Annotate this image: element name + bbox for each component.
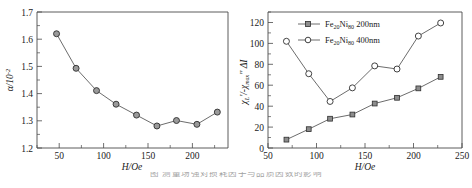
svg-text:α/10-2: α/10-2 xyxy=(4,68,15,91)
data-point xyxy=(349,85,355,91)
data-point xyxy=(394,66,400,72)
right-x-tick-marks xyxy=(268,143,462,148)
left-axes-frame xyxy=(37,12,228,148)
figure-caption-strip: 图 测量场强对损耗因子与品质因数的影响 xyxy=(0,172,472,188)
right-y-tick-labels: 120 100 80 60 40 20 0 xyxy=(250,18,265,154)
data-point xyxy=(154,123,160,129)
data-point xyxy=(306,71,312,77)
right-x-tick-labels: 50 100 150 200 250 xyxy=(263,151,469,161)
right-x-axis-title: H/Oe xyxy=(354,162,376,172)
right-x-tick-label: 250 xyxy=(455,151,470,161)
data-point xyxy=(214,109,220,115)
right-x-tick-label: 200 xyxy=(406,151,421,161)
svg-text:Fe20Ni80 200nm: Fe20Ni80 200nm xyxy=(325,19,380,30)
right-y-tick-label: 100 xyxy=(250,39,265,49)
left-y-axis-title-main: α/10 xyxy=(5,74,15,91)
data-point xyxy=(372,63,378,69)
data-point xyxy=(415,33,421,39)
right-series-400nm xyxy=(283,20,443,104)
left-y-tick-marks xyxy=(37,12,42,148)
data-point xyxy=(395,95,400,100)
data-point xyxy=(416,86,421,91)
right-series-markers-200nm xyxy=(284,74,443,142)
left-y-tick-label: 1.5 xyxy=(21,62,33,72)
svg-text:Fe20Ni80 400nm: Fe20Ni80 400nm xyxy=(325,35,380,46)
right-y-tick-label: 120 xyxy=(250,18,265,28)
right-y-tick-label: 20 xyxy=(255,123,265,133)
right-x-tick-label: 50 xyxy=(263,151,273,161)
left-y-axis-title: α/10-2 xyxy=(4,68,15,91)
left-series-markers xyxy=(54,31,221,129)
left-series-alpha xyxy=(54,31,221,129)
data-point xyxy=(328,116,333,121)
right-x-tick-label: 150 xyxy=(358,151,373,161)
left-y-tick-label: 1.2 xyxy=(21,144,33,154)
left-chart-svg: 1.7 1.6 1.5 1.4 1.3 1.2 50 xyxy=(0,0,236,172)
right-y-tick-label: 80 xyxy=(255,60,265,70)
left-x-tick-label: 200 xyxy=(185,151,200,161)
right-y-tick-marks xyxy=(268,12,273,148)
data-point xyxy=(438,74,443,79)
left-y-tick-label: 1.7 xyxy=(21,8,33,18)
right-y-tick-label: 40 xyxy=(255,102,265,112)
right-x-tick-label: 100 xyxy=(309,151,324,161)
right-axes-frame xyxy=(268,12,462,148)
left-x-tick-labels: 50 100 150 200 xyxy=(54,151,199,161)
data-point xyxy=(306,127,311,132)
right-y-axis-title: χL'/-χmax'' ΔI xyxy=(239,59,250,106)
data-point xyxy=(283,38,289,44)
figure-panels-row: 1.7 1.6 1.5 1.4 1.3 1.2 50 xyxy=(0,0,472,172)
left-chart-panel: 1.7 1.6 1.5 1.4 1.3 1.2 50 xyxy=(0,0,236,172)
data-point xyxy=(194,121,200,127)
right-y-axis-mid: /- xyxy=(239,89,249,96)
legend-label-200nm-suffix: 200nm xyxy=(354,19,380,29)
right-chart-svg: 120 100 80 60 40 20 0 xyxy=(236,0,472,172)
legend-label-400nm-suffix: 400nm xyxy=(354,35,380,45)
left-x-tick-label: 100 xyxy=(96,151,111,161)
right-y-axis-sub-max: max xyxy=(244,74,250,84)
data-point xyxy=(54,31,60,37)
left-y-tick-labels: 1.7 1.6 1.5 1.4 1.3 1.2 xyxy=(21,8,33,154)
left-x-tick-label: 50 xyxy=(54,151,64,161)
data-point xyxy=(350,112,355,117)
right-y-axis-delta: ΔI xyxy=(239,59,249,70)
left-y-axis-title-exponent: -2 xyxy=(4,68,11,74)
left-y-tick-label: 1.6 xyxy=(21,35,33,45)
data-point xyxy=(73,65,79,71)
left-x-tick-label: 150 xyxy=(141,151,156,161)
data-point xyxy=(372,101,377,106)
data-point xyxy=(113,101,119,107)
figure-caption-text: 图 测量场强对损耗因子与品质因数的影响 xyxy=(0,172,472,178)
data-point xyxy=(284,137,289,142)
left-x-axis-title: H/Oe xyxy=(121,162,143,172)
right-series-200nm xyxy=(284,74,443,142)
svg-text:χL'/-χmax'' ΔI: χL'/-χmax'' ΔI xyxy=(239,59,250,106)
data-point xyxy=(438,20,444,26)
right-chart-panel: 120 100 80 60 40 20 0 xyxy=(236,0,472,172)
legend-label-200nm-prefix: Fe xyxy=(325,19,334,29)
data-point xyxy=(94,88,100,94)
left-x-tick-marks xyxy=(37,143,215,148)
data-point xyxy=(134,112,140,118)
right-series-markers-400nm xyxy=(283,20,443,104)
data-point xyxy=(173,118,179,124)
left-y-tick-label: 1.4 xyxy=(21,89,33,99)
data-point xyxy=(327,98,333,104)
right-y-tick-label: 60 xyxy=(255,81,265,91)
legend-label-400nm-prefix: Fe xyxy=(325,35,334,45)
left-y-tick-label: 1.3 xyxy=(21,116,33,126)
legend-item-400nm[interactable]: Fe20Ni80 400nm xyxy=(298,35,380,46)
legend: Fe20Ni80 200nm Fe20Ni80 400nm xyxy=(298,19,380,46)
legend-item-200nm[interactable]: Fe20Ni80 200nm xyxy=(298,19,380,30)
